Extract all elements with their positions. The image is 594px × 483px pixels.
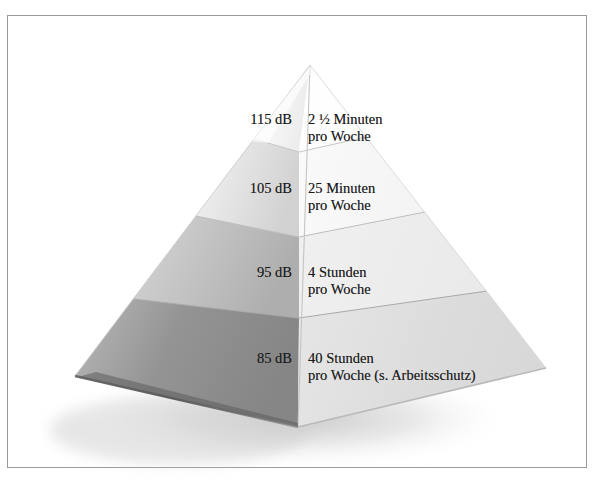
pyramid-figure: 115 dB 2 ½ Minuten pro Woche 105 dB 25 M…: [0, 0, 594, 483]
pyramid-graphic: [0, 0, 594, 483]
pyramid-right-face: [298, 65, 546, 427]
